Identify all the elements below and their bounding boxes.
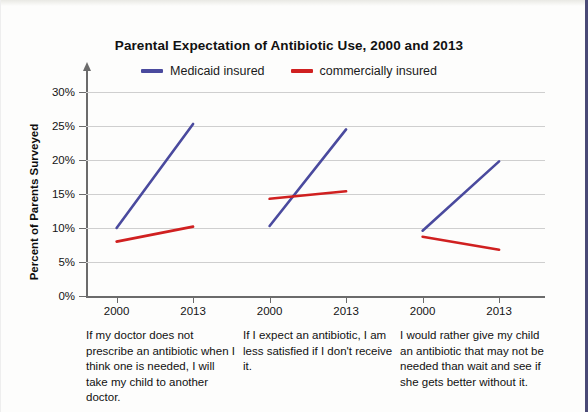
y-tick-mark	[79, 92, 86, 93]
legend-label-medicaid-insured: Medicaid insured	[170, 64, 265, 78]
y-tick-label: 10%	[52, 222, 75, 234]
y-tick-label: 5%	[58, 256, 75, 268]
data-series-layer	[86, 92, 545, 296]
data-line-medicaid	[423, 161, 500, 230]
y-tick-mark	[79, 160, 86, 161]
y-tick-label: 20%	[52, 154, 75, 166]
legend-label-commercially-insured: commercially insured	[320, 64, 437, 78]
chart-page: Parental Expectation of Antibiotic Use, …	[0, 0, 588, 412]
x-tick-label: 2000	[104, 305, 130, 317]
gridline	[86, 296, 545, 297]
x-tick-label: 2013	[333, 305, 359, 317]
legend-item-medicaid-insured: Medicaid insured	[141, 64, 265, 78]
data-line-medicaid	[117, 124, 194, 228]
x-tick-mark	[499, 296, 500, 303]
data-line-medicaid	[270, 129, 347, 226]
y-tick-label: 25%	[52, 120, 75, 132]
x-tick-label: 2013	[486, 305, 512, 317]
x-tick-mark	[117, 296, 118, 303]
panel-caption-2: I would rather give my child an antibiot…	[400, 328, 552, 390]
x-tick-label: 2000	[410, 305, 436, 317]
y-tick-label: 30%	[52, 86, 75, 98]
chart-title: Parental Expectation of Antibiotic Use, …	[0, 38, 578, 53]
y-tick-label: 0%	[58, 290, 75, 302]
data-line-commercial	[117, 227, 194, 242]
y-tick-mark	[79, 228, 86, 229]
y-tick-mark	[79, 296, 86, 297]
data-line-commercial	[423, 237, 500, 250]
y-tick-mark	[79, 126, 86, 127]
page-edge-shadow	[0, 0, 588, 6]
y-axis-title: Percent of Parents Surveyed	[28, 92, 40, 312]
x-tick-mark	[193, 296, 194, 303]
panel-caption-0: If my doctor does not prescribe an antib…	[86, 328, 236, 406]
x-tick-mark	[346, 296, 347, 303]
legend-line-swatch-icon	[141, 69, 163, 73]
plot-area: 30%25%20%15%10%5%0% 20002013200020132000…	[86, 92, 545, 296]
y-tick-label: 15%	[52, 188, 75, 200]
legend-line-swatch-icon	[291, 69, 313, 73]
data-line-commercial	[270, 191, 347, 198]
x-tick-mark	[423, 296, 424, 303]
x-tick-mark	[270, 296, 271, 303]
legend-item-commercially-insured: commercially insured	[291, 64, 437, 78]
panel-caption-1: If I expect an antibiotic, I am less sat…	[243, 328, 393, 375]
x-tick-label: 2013	[180, 305, 206, 317]
y-tick-mark	[79, 262, 86, 263]
y-tick-mark	[79, 194, 86, 195]
x-tick-label: 2000	[257, 305, 283, 317]
